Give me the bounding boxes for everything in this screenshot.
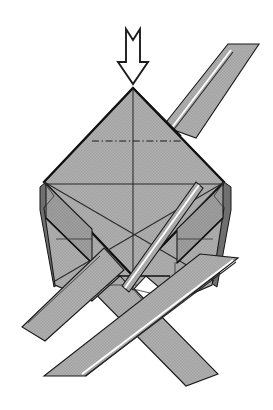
upper-right-strip bbox=[163, 44, 259, 138]
fold-down-arrow-shape bbox=[118, 29, 148, 84]
fold-down-arrow bbox=[118, 29, 148, 84]
origami-illustration bbox=[0, 0, 273, 410]
origami-diagram-root bbox=[0, 0, 273, 410]
upper-right-strip-face bbox=[163, 44, 259, 138]
